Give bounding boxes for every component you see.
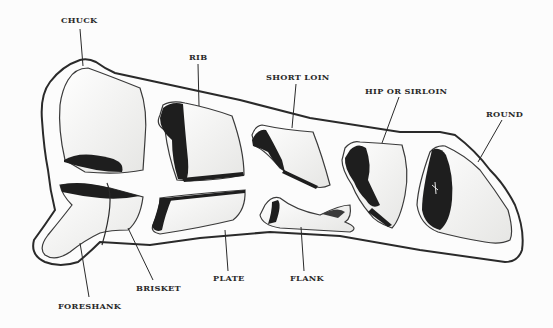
label-hip-or-sirloin: HIP OR SIRLOIN xyxy=(365,86,447,96)
cut-plate xyxy=(152,190,245,234)
label-plate: PLATE xyxy=(213,273,245,283)
cut-rib xyxy=(158,102,244,182)
label-flank: FLANK xyxy=(290,273,324,283)
label-round: ROUND xyxy=(486,109,523,119)
cut-short-loin xyxy=(252,125,330,189)
cut-hip-or-sirloin xyxy=(342,142,407,228)
leader-foreshank xyxy=(80,243,89,297)
label-foreshank: FORESHANK xyxy=(58,301,121,311)
label-chuck: CHUCK xyxy=(61,15,98,25)
leader-round xyxy=(478,120,502,162)
cut-round xyxy=(417,146,512,243)
label-rib: RIB xyxy=(189,52,207,62)
leader-short-loin xyxy=(292,84,296,128)
beef-cuts-diagram: CHUCK RIB SHORT LOIN HIP OR SIRLOIN ROUN… xyxy=(0,0,553,328)
cut-chuck xyxy=(60,68,146,173)
label-brisket: BRISKET xyxy=(136,283,181,293)
leader-rib xyxy=(198,64,199,106)
carcass-illustration xyxy=(0,0,553,328)
cut-flank xyxy=(260,197,354,232)
cut-foreshank-brisket xyxy=(42,183,143,258)
label-short-loin: SHORT LOIN xyxy=(266,72,330,82)
leader-hip-or-sirloin xyxy=(382,97,399,143)
leader-brisket xyxy=(128,228,153,280)
